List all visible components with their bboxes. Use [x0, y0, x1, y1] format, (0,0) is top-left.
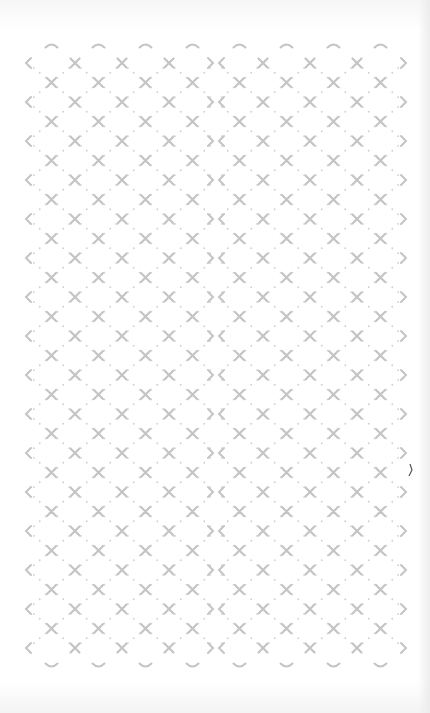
dot — [291, 164, 293, 166]
dot — [244, 242, 246, 244]
dot — [68, 564, 70, 566]
dot — [150, 506, 152, 508]
x-cross-icon — [118, 137, 127, 146]
dot — [109, 208, 111, 210]
dot — [250, 306, 252, 308]
x-cross-icon — [47, 624, 56, 633]
dot — [227, 384, 229, 386]
dot — [291, 437, 293, 439]
dot — [203, 637, 205, 639]
dot — [368, 130, 370, 132]
dot — [344, 637, 346, 639]
dot — [62, 247, 64, 249]
dot — [162, 535, 164, 537]
dot — [233, 116, 235, 118]
dot — [321, 286, 323, 288]
dot — [268, 135, 270, 137]
dot — [156, 559, 158, 561]
x-cross-icon — [235, 156, 244, 165]
x-cross-icon — [47, 507, 56, 516]
dot — [174, 447, 176, 449]
dot — [227, 481, 229, 483]
dot — [350, 67, 352, 69]
chevron-left-icon — [26, 643, 31, 653]
x-cross-icon — [235, 468, 244, 477]
dot — [362, 486, 364, 488]
dot — [115, 642, 117, 644]
dot — [33, 613, 35, 615]
dot — [374, 398, 376, 400]
dot — [174, 369, 176, 371]
x-cross-icon — [376, 429, 385, 438]
dot — [127, 340, 129, 342]
dot — [45, 476, 47, 478]
x-cross-icon — [306, 371, 315, 380]
dot — [203, 423, 205, 425]
dot — [156, 364, 158, 366]
chevron-left-icon — [26, 487, 31, 497]
dot — [86, 364, 88, 366]
dot — [274, 306, 276, 308]
dot — [385, 593, 387, 595]
dot — [321, 618, 323, 620]
dot — [397, 145, 399, 147]
dot — [80, 603, 82, 605]
dot — [33, 369, 35, 371]
dot — [362, 496, 364, 498]
dot — [156, 598, 158, 600]
dot — [350, 535, 352, 537]
dot — [268, 447, 270, 449]
dot — [209, 525, 211, 527]
dot — [385, 437, 387, 439]
x-cross-icon — [47, 78, 56, 87]
dot — [33, 447, 35, 449]
dot — [350, 145, 352, 147]
dot — [227, 150, 229, 152]
dot — [385, 545, 387, 547]
dot — [233, 281, 235, 283]
dot — [303, 564, 305, 566]
dot — [374, 584, 376, 586]
dot — [256, 408, 258, 410]
dot — [103, 437, 105, 439]
dot — [374, 593, 376, 595]
chevron-left-icon — [26, 409, 31, 419]
dot — [186, 437, 188, 439]
dot — [362, 574, 364, 576]
dot — [162, 486, 164, 488]
dot — [203, 306, 205, 308]
dot — [368, 169, 370, 171]
dot — [133, 306, 135, 308]
dot — [33, 213, 35, 215]
dot — [338, 203, 340, 205]
x-cross-icon — [306, 137, 315, 146]
dot — [92, 155, 94, 157]
dot — [256, 564, 258, 566]
x-cross-icon — [259, 215, 268, 224]
x-cross-icon — [329, 429, 338, 438]
dot — [362, 67, 364, 69]
dot — [80, 447, 82, 449]
dot — [227, 189, 229, 191]
arc-top-icon — [328, 45, 340, 48]
dot — [362, 184, 364, 186]
x-cross-icon — [329, 546, 338, 555]
dot — [162, 369, 164, 371]
dot — [250, 325, 252, 327]
dot — [250, 169, 252, 171]
dot — [133, 130, 135, 132]
dot — [56, 233, 58, 235]
x-cross-icon — [282, 234, 291, 243]
x-cross-icon — [94, 351, 103, 360]
chevron-right-icon — [208, 292, 213, 302]
dot — [162, 106, 164, 108]
dot — [321, 579, 323, 581]
dot — [115, 67, 117, 69]
dot — [180, 462, 182, 464]
chevron-right-icon — [208, 253, 213, 263]
dot — [92, 593, 94, 595]
dot — [274, 520, 276, 522]
x-cross-icon — [353, 98, 362, 107]
dot — [45, 125, 47, 127]
dot — [197, 203, 199, 205]
